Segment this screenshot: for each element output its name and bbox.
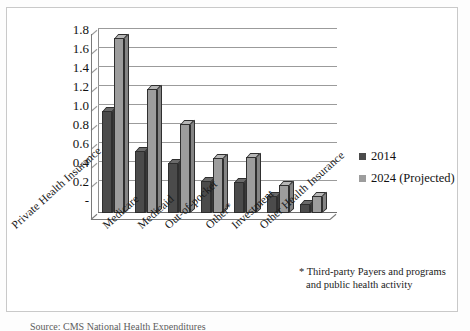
- bar-face: [180, 124, 190, 213]
- floor-edge-right: [330, 214, 337, 220]
- y-tick-6: 1.2: [73, 80, 89, 93]
- bar-face: [234, 182, 244, 213]
- y-tick-4: 0.8: [73, 118, 89, 131]
- bar-2014-other-health-insurance[interactable]: [300, 204, 310, 213]
- y-tick-3: 0.6: [73, 137, 89, 150]
- bar-2024-out-of-pocket[interactable]: [213, 158, 223, 213]
- x-axis-line: [91, 219, 330, 220]
- page-background: - 0.2 0.4 0.6 0.8 1.0 1.2 1.4 1.6 1.8: [0, 0, 470, 331]
- legend-item-2014[interactable]: 2014: [359, 150, 469, 163]
- y-tick-1: 0.2: [73, 175, 89, 188]
- bar-group-medicare: [135, 34, 166, 213]
- bar-face: [114, 38, 124, 213]
- y-tick-9: 1.8: [73, 23, 89, 36]
- bar-group-other-health-insurance: [300, 34, 331, 213]
- bar-2024-other[interactable]: [246, 157, 256, 213]
- bar-side: [190, 120, 195, 213]
- bar-2014-out-of-pocket[interactable]: [201, 181, 211, 213]
- bar-groups: [98, 34, 337, 213]
- bar-face: [168, 163, 178, 213]
- bar-group-private-health-insurance: [102, 34, 133, 213]
- bar-face: [201, 181, 211, 213]
- y-axis-line: [91, 34, 92, 220]
- legend-item-2024-projected[interactable]: 2024 (Projected): [359, 172, 469, 185]
- bar-group-out-of-pocket: [201, 34, 232, 213]
- chart-legend: 2014 2024 (Projected): [359, 150, 469, 194]
- bar-2014-investment[interactable]: [267, 196, 277, 213]
- bar-2024-other-health-insurance[interactable]: [312, 196, 322, 213]
- bar-2014-medicaid[interactable]: [168, 163, 178, 213]
- bar-2024-private-health-insurance[interactable]: [114, 38, 124, 213]
- y-tick-8: 1.6: [73, 42, 89, 55]
- footnote-line-1: * Third-party Payers and programs: [299, 266, 464, 279]
- y-axis-labels: - 0.2 0.4 0.6 0.8 1.0 1.2 1.4 1.6 1.8: [55, 22, 89, 222]
- chart-footnote: * Third-party Payers and programs and pu…: [299, 266, 464, 291]
- bar-side: [124, 34, 129, 213]
- chart-frame: - 0.2 0.4 0.6 0.8 1.0 1.2 1.4 1.6 1.8: [6, 7, 458, 312]
- bar-2024-investment[interactable]: [279, 185, 289, 213]
- bar-face: [102, 111, 112, 213]
- bar-group-other: [234, 34, 265, 213]
- bar-side: [223, 154, 228, 213]
- bar-face: [267, 196, 277, 213]
- y-tick-5: 1.0: [73, 99, 89, 112]
- bar-2024-medicaid[interactable]: [180, 124, 190, 213]
- bar-2014-other[interactable]: [234, 182, 244, 213]
- bar-face: [246, 157, 256, 213]
- y-tick-7: 1.4: [73, 61, 89, 74]
- legend-swatch-icon-2024: [359, 175, 366, 182]
- bar-side: [157, 85, 162, 213]
- y-tick-2: 0.4: [73, 156, 89, 169]
- bar-face: [279, 185, 289, 213]
- y-tick-0: -: [85, 194, 89, 207]
- bar-2024-medicare[interactable]: [147, 89, 157, 213]
- legend-label-2014: 2014: [371, 150, 396, 163]
- bar-face: [147, 89, 157, 213]
- bar-side: [289, 181, 294, 213]
- legend-swatch-icon-2014: [359, 153, 366, 160]
- footnote-line-2: and public health activity: [299, 279, 464, 292]
- bar-2014-private-health-insurance[interactable]: [102, 111, 112, 213]
- bar-group-investment: [267, 34, 298, 213]
- bar-face: [300, 204, 310, 213]
- bar-2014-medicare[interactable]: [135, 151, 145, 213]
- legend-label-2024-projected: 2024 (Projected): [371, 172, 455, 185]
- plot-area: [91, 28, 337, 220]
- bar-face: [135, 151, 145, 213]
- bar-face: [213, 158, 223, 213]
- bar-face: [312, 196, 322, 213]
- bar-side: [256, 153, 261, 213]
- source-caption: Source: CMS National Health Expenditures: [30, 321, 206, 330]
- gridline-1.8: [98, 28, 337, 29]
- bar-group-medicaid: [168, 34, 199, 213]
